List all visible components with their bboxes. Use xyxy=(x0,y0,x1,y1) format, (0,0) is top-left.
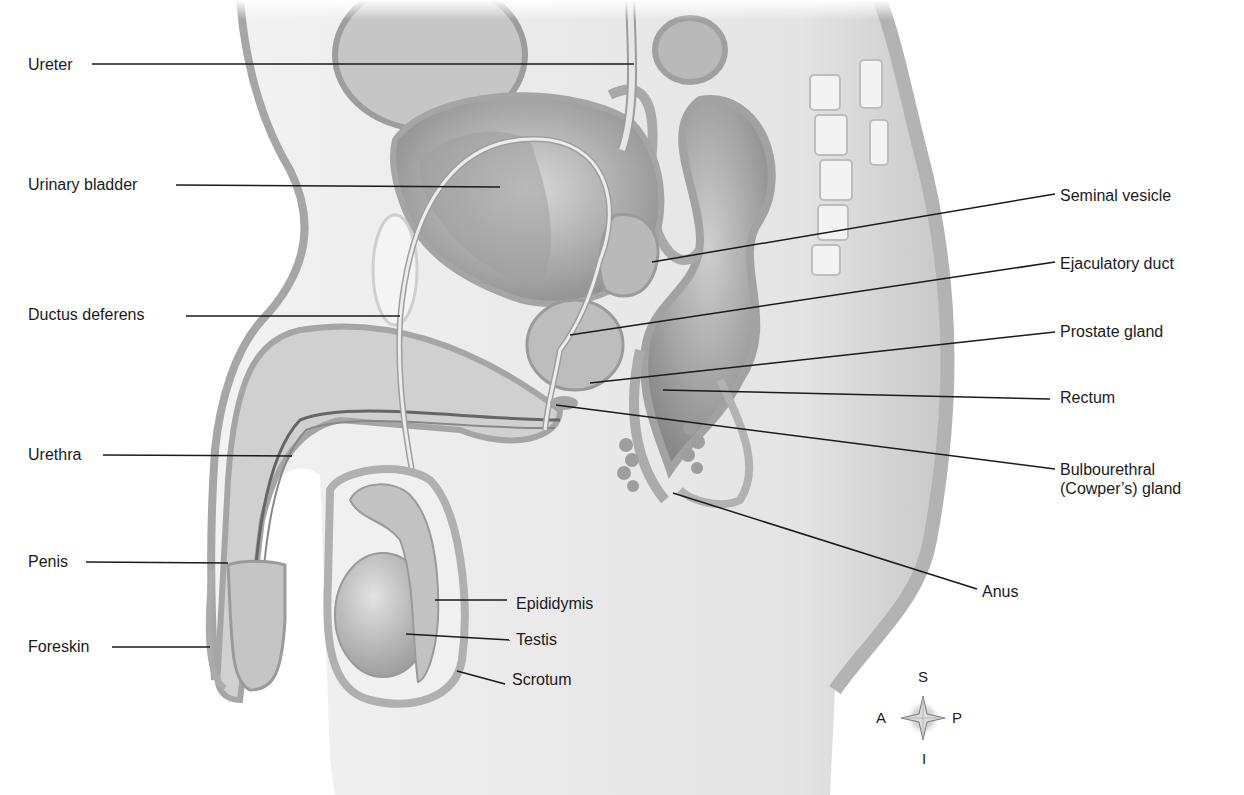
label-penis: Penis xyxy=(28,552,68,571)
label-urethra: Urethra xyxy=(28,445,81,464)
compass-posterior: P xyxy=(952,709,962,726)
label-foreskin: Foreskin xyxy=(28,637,89,656)
leader-line xyxy=(590,332,1055,383)
label-ureter: Ureter xyxy=(28,55,72,74)
leader-line xyxy=(457,671,505,684)
leader-line xyxy=(570,262,1055,335)
label-ejaculatory-duct: Ejaculatory duct xyxy=(1060,254,1174,273)
leader-line xyxy=(673,493,977,589)
orientation-compass: S A P I xyxy=(872,668,972,778)
leader-line xyxy=(86,562,228,563)
label-rectum: Rectum xyxy=(1060,388,1115,407)
label-scrotum: Scrotum xyxy=(512,670,572,689)
label-anus: Anus xyxy=(982,582,1018,601)
compass-inferior: I xyxy=(922,750,926,767)
leader-line xyxy=(556,405,1055,469)
compass-superior: S xyxy=(918,668,928,685)
leader-line xyxy=(406,634,510,640)
label-epididymis: Epididymis xyxy=(516,594,593,613)
leader-line xyxy=(652,194,1055,262)
leader-line xyxy=(103,455,292,456)
label-testis: Testis xyxy=(516,630,557,649)
anatomy-figure: Ureter Urinary bladder Ductus deferens U… xyxy=(0,0,1244,795)
leader-line xyxy=(663,390,1050,399)
compass-rose-icon xyxy=(899,694,947,742)
label-bulbourethral-gland: Bulbourethral (Cowper’s) gland xyxy=(1060,460,1181,498)
compass-anterior: A xyxy=(876,709,886,726)
leader-lines xyxy=(0,0,1244,795)
label-ductus-deferens: Ductus deferens xyxy=(28,305,145,324)
label-seminal-vesicle: Seminal vesicle xyxy=(1060,186,1171,205)
leader-line xyxy=(176,185,500,187)
label-urinary-bladder: Urinary bladder xyxy=(28,175,137,194)
label-prostate-gland: Prostate gland xyxy=(1060,322,1163,341)
